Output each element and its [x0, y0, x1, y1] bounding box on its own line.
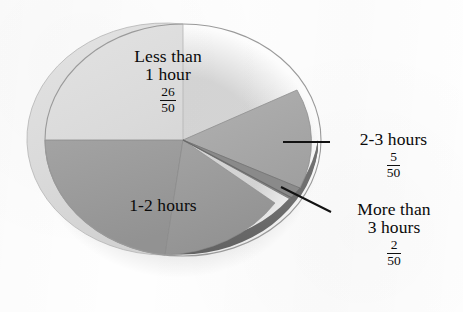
fraction-denominator: 50: [387, 254, 401, 269]
slice-label-less-than-1-hour: Less than 1 hour 26 50: [103, 47, 233, 116]
slice-value-less-than-1-hour: 26 50: [160, 85, 176, 115]
slice-value-more-than-3-hours: 2 50: [387, 238, 401, 268]
slice-label-more-than-3-hours: More than 3 hours 2 50: [330, 200, 458, 269]
fraction-numerator: 26: [160, 85, 176, 101]
slice-label-more-than-3-hours-line2: 3 hours: [330, 218, 458, 236]
slice-label-1-2-hours-line1: 1-2 hours: [93, 196, 233, 214]
fraction-denominator: 50: [160, 101, 176, 116]
slice-label-more-than-3-hours-line1: More than: [330, 200, 458, 218]
fraction-numerator: 5: [387, 150, 401, 166]
slice-label-less-than-1-hour-line2: 1 hour: [103, 65, 233, 83]
slice-label-less-than-1-hour-line1: Less than: [103, 47, 233, 65]
slice-label-2-3-hours-line1: 2-3 hours: [331, 130, 456, 148]
slice-label-2-3-hours: 2-3 hours 5 50: [331, 130, 456, 180]
slice-label-1-2-hours: 1-2 hours: [93, 196, 233, 214]
pie-chart-figure: Less than 1 hour 26 50 1-2 hours 2-3 hou…: [0, 0, 463, 312]
fraction-denominator: 50: [387, 166, 401, 181]
fraction-numerator: 2: [387, 238, 401, 254]
slice-value-2-3-hours: 5 50: [387, 150, 401, 180]
